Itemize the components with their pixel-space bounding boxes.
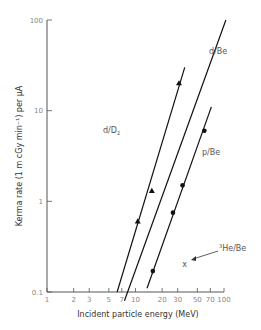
x-tick-label: 70 xyxy=(206,296,215,304)
he-arrow-line xyxy=(193,251,218,259)
y-tick-label: 1 xyxy=(39,198,43,206)
y-tick-label: 10 xyxy=(34,107,43,115)
label-d-be: d/Be xyxy=(209,47,227,56)
x-tick-label: 50 xyxy=(193,296,202,304)
label-3he-be: 3He/Be xyxy=(219,243,246,253)
x-tick-label: 7 xyxy=(120,296,124,304)
label-d-d2: d/D2 xyxy=(103,126,120,136)
fit-line-dd2 xyxy=(117,67,185,292)
fit-line-pbe xyxy=(147,107,211,288)
x-tick-label: 2 xyxy=(71,296,75,304)
x-tick-label: 10 xyxy=(131,296,140,304)
x-tick-label: 3 xyxy=(87,296,91,304)
y-axis-title: Kerma rate (1 m cGy min⁻¹) per μA xyxy=(15,85,24,226)
kerma-rate-chart: 1235710203050701000.1110100 x d/D2d/Bep/… xyxy=(0,0,261,330)
x-tick-label: 20 xyxy=(158,296,167,304)
fit-line-dbe xyxy=(124,20,225,301)
circle-marker xyxy=(151,269,156,274)
circle-marker xyxy=(202,128,207,133)
triangle-marker xyxy=(149,188,155,193)
y-tick-label: 0.1 xyxy=(32,289,43,297)
fit-lines xyxy=(117,20,226,301)
circle-marker xyxy=(171,210,176,215)
y-tick-label: 100 xyxy=(30,17,43,25)
x-marker: x xyxy=(182,260,187,269)
series-labels: d/D2d/Bep/Be3He/Be xyxy=(103,47,246,261)
triangle-marker xyxy=(135,218,141,223)
data-markers: x xyxy=(135,80,207,273)
arrow-head-icon xyxy=(191,256,196,261)
circle-marker xyxy=(180,183,185,188)
x-tick-label: 100 xyxy=(217,296,230,304)
axes: 1235710203050701000.1110100 xyxy=(30,17,231,305)
x-tick-label: 5 xyxy=(107,296,111,304)
x-axis-title: Incident particle energy (MeV) xyxy=(77,310,198,319)
label-p-be: p/Be xyxy=(202,148,220,157)
x-tick-label: 30 xyxy=(173,296,182,304)
x-tick-label: 1 xyxy=(45,296,49,304)
